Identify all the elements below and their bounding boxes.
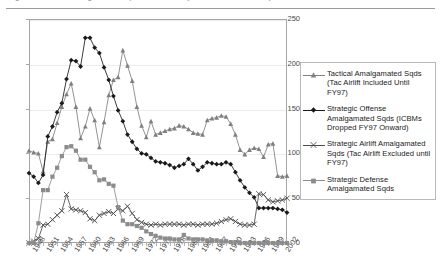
data-point-marker xyxy=(243,241,247,245)
data-point-marker xyxy=(238,178,243,183)
legend-marker-cross-icon xyxy=(303,140,325,150)
data-point-marker xyxy=(229,240,233,244)
chart-legend: Tactical Amalgamated Sqds (Tac Airlift I… xyxy=(300,62,436,200)
data-point-marker xyxy=(233,170,238,175)
data-point-marker xyxy=(205,238,209,242)
data-point-marker xyxy=(172,237,176,241)
data-point-marker xyxy=(125,132,130,137)
data-point-marker xyxy=(200,237,204,241)
data-point-marker xyxy=(50,137,55,142)
data-point-marker xyxy=(177,164,182,169)
data-point-marker xyxy=(50,124,55,129)
data-point-marker xyxy=(83,210,88,215)
legend-item-1[interactable]: Tactical Amalgamated Sqds (Tac Airlift I… xyxy=(303,69,431,97)
data-point-marker xyxy=(276,241,280,245)
data-point-marker xyxy=(139,123,144,128)
series-line xyxy=(29,38,287,213)
data-point-marker xyxy=(219,219,224,224)
series-line xyxy=(29,146,287,243)
data-point-marker xyxy=(120,208,125,213)
data-point-marker xyxy=(111,77,116,82)
data-point-marker xyxy=(36,236,41,241)
clipped-caption-text: Figure — USAF amalgamated squadron total… xyxy=(8,0,433,1)
data-point-marker xyxy=(238,241,242,245)
data-point-marker xyxy=(111,211,116,216)
data-point-marker xyxy=(214,162,219,167)
data-point-marker xyxy=(106,93,111,98)
series-1 xyxy=(27,48,290,179)
legend-item-3[interactable]: Strategic Airlift Amalgamated Sqds (Tac … xyxy=(303,139,431,167)
data-point-marker xyxy=(215,238,219,242)
data-point-marker xyxy=(36,221,40,225)
data-point-marker xyxy=(120,119,125,124)
data-point-marker xyxy=(252,146,257,151)
data-point-marker xyxy=(88,106,93,111)
data-point-marker xyxy=(116,205,120,209)
data-point-marker xyxy=(247,241,251,245)
series-line xyxy=(29,50,287,176)
legend-item-4[interactable]: Strategic Defense Amalgamated Sqds xyxy=(303,175,431,194)
data-point-marker xyxy=(261,154,266,159)
data-point-marker xyxy=(196,237,200,241)
data-point-marker xyxy=(116,108,121,113)
data-point-marker xyxy=(93,170,97,174)
data-point-marker xyxy=(238,147,243,152)
data-point-marker xyxy=(177,237,181,241)
data-point-marker xyxy=(64,77,69,82)
data-point-marker xyxy=(285,173,290,178)
data-point-marker xyxy=(111,184,115,188)
series-3 xyxy=(26,191,289,245)
data-point-marker xyxy=(252,241,256,245)
data-point-marker xyxy=(257,241,261,245)
data-point-marker xyxy=(83,35,88,40)
data-point-marker xyxy=(97,178,101,182)
data-point-marker xyxy=(182,233,186,237)
data-point-marker xyxy=(130,211,135,216)
chart-area: 0501001502002501948195119541957196019631… xyxy=(0,14,300,280)
data-point-marker xyxy=(83,158,87,162)
data-point-marker xyxy=(266,206,271,211)
data-point-marker xyxy=(311,143,317,149)
data-point-marker xyxy=(149,232,153,236)
data-point-marker xyxy=(88,35,93,40)
data-point-marker xyxy=(50,217,55,222)
data-point-marker xyxy=(55,120,60,125)
data-point-marker xyxy=(130,139,135,144)
data-point-marker xyxy=(92,218,97,223)
data-point-marker xyxy=(261,206,266,211)
data-point-marker xyxy=(78,136,83,141)
data-point-marker xyxy=(219,162,224,167)
data-point-marker xyxy=(280,207,285,212)
data-point-marker xyxy=(69,58,74,63)
data-point-marker xyxy=(167,163,172,168)
data-point-marker xyxy=(111,94,116,99)
data-point-marker xyxy=(266,241,270,245)
legend-label: Strategic Defense Amalgamated Sqds xyxy=(325,175,431,194)
data-point-marker xyxy=(134,217,139,222)
series-2 xyxy=(27,35,290,215)
data-point-marker xyxy=(311,178,316,183)
data-point-marker xyxy=(233,240,237,244)
data-point-marker xyxy=(271,141,276,146)
data-point-marker xyxy=(64,192,69,197)
data-point-marker xyxy=(59,208,64,213)
data-point-marker xyxy=(55,110,60,115)
legend-label: Strategic Airlift Amalgamated Sqds (Tac … xyxy=(325,139,431,167)
legend-marker-diamond-icon xyxy=(303,105,325,115)
data-point-marker xyxy=(107,182,111,186)
data-point-marker xyxy=(83,124,88,129)
data-point-marker xyxy=(285,241,289,245)
data-point-marker xyxy=(92,118,97,123)
data-point-marker xyxy=(125,63,130,68)
data-point-marker xyxy=(27,241,31,245)
data-point-marker xyxy=(116,75,121,80)
data-point-marker xyxy=(224,160,229,165)
data-point-marker xyxy=(168,236,172,240)
data-point-marker xyxy=(186,127,191,132)
data-point-marker xyxy=(97,145,102,150)
legend-item-2[interactable]: Strategic Offense Amalgamated Sqds (ICBM… xyxy=(303,104,431,132)
data-point-marker xyxy=(172,126,177,131)
data-point-marker xyxy=(50,175,54,179)
data-point-marker xyxy=(60,154,64,158)
chart-screenshot: Figure — USAF amalgamated squadron total… xyxy=(0,0,441,280)
